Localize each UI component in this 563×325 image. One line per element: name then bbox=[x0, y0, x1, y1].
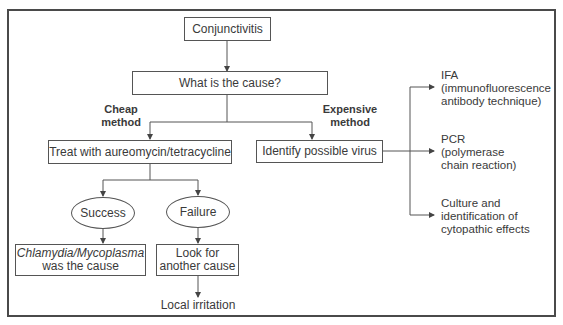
ifa-line1: IFA bbox=[441, 69, 556, 82]
question-label: What is the cause? bbox=[179, 77, 281, 90]
failure-node: Failure bbox=[166, 196, 230, 228]
pcr-line3: chain reaction) bbox=[441, 159, 556, 172]
cheap-method-label: Cheap method bbox=[96, 103, 146, 129]
expensive-label-line1: Expensive bbox=[320, 103, 380, 116]
cheap-label-line1: Cheap bbox=[96, 103, 146, 116]
method-culture: Culture and identification of cytopathic… bbox=[441, 197, 556, 236]
another-cause-label: another cause bbox=[159, 260, 235, 273]
identify-virus-label: Identify possible virus bbox=[262, 145, 377, 158]
ifa-line3: antibody technique) bbox=[441, 95, 556, 108]
identify-virus-node: Identify possible virus bbox=[256, 140, 383, 163]
pcr-line1: PCR bbox=[441, 133, 556, 146]
culture-line1: Culture and bbox=[441, 197, 556, 210]
look-for-another-cause-node: Look for another cause bbox=[156, 244, 239, 276]
pcr-line2: (polymerase bbox=[441, 146, 556, 159]
treat-node: Treat with aureomycin/tetracycline bbox=[48, 140, 232, 164]
method-ifa: IFA (immunofluorescence antibody techniq… bbox=[441, 69, 556, 108]
ifa-line2: (immunofluorescence bbox=[441, 82, 556, 95]
chlamydia-result-node: Chlamydia/Mycoplasma was the cause bbox=[15, 244, 146, 276]
cheap-label-line2: method bbox=[96, 116, 146, 129]
local-irritation-label: Local irritation bbox=[158, 299, 238, 312]
root-label: Conjunctivitis bbox=[192, 23, 263, 36]
root-node-conjunctivitis: Conjunctivitis bbox=[184, 17, 271, 41]
expensive-method-label: Expensive method bbox=[320, 103, 380, 129]
question-node: What is the cause? bbox=[132, 71, 328, 95]
culture-line3: cytopathic effects bbox=[441, 223, 556, 236]
was-the-cause-label: was the cause bbox=[42, 260, 119, 273]
failure-label: Failure bbox=[180, 205, 217, 219]
treat-label: Treat with aureomycin/tetracycline bbox=[49, 146, 231, 159]
culture-line2: identification of bbox=[441, 210, 556, 223]
success-label: Success bbox=[80, 206, 125, 220]
success-node: Success bbox=[71, 197, 135, 229]
expensive-label-line2: method bbox=[320, 116, 380, 129]
method-pcr: PCR (polymerase chain reaction) bbox=[441, 133, 556, 172]
